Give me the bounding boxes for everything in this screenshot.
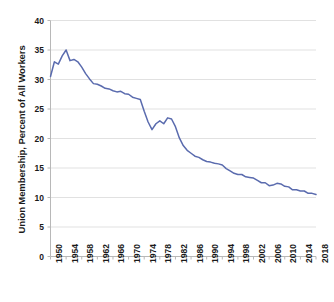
x-tick-label: 1994 [226,244,236,263]
x-axis-tick-labels: 1950195419581962196619701974197819821986… [0,0,334,302]
x-tick-label: 2002 [257,244,267,263]
union-membership-line-chart: Union Membership, Percent of All Workers… [0,0,334,302]
x-tick-label: 1966 [116,244,126,263]
x-tick-label: 1954 [70,244,80,263]
x-tick-label: 1986 [195,244,205,263]
x-tick-label: 2006 [273,244,283,263]
x-tick-label: 2010 [288,244,298,263]
x-tick-label: 2014 [304,244,314,263]
x-tick-label: 1982 [179,244,189,263]
x-tick-label: 1974 [148,244,158,263]
x-tick-label: 1962 [101,244,111,263]
x-tick-label: 1998 [241,244,251,263]
x-tick-label: 2018 [320,244,330,263]
x-tick-label: 1950 [54,244,64,263]
x-tick-label: 1970 [132,244,142,263]
x-tick-label: 1990 [210,244,220,263]
x-tick-label: 1978 [163,244,173,263]
x-tick-label: 1958 [85,244,95,263]
